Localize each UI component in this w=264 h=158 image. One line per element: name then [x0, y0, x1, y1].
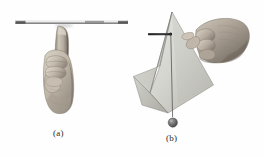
figure-illustration: [0, 0, 264, 158]
panel-a-caption: (a): [53, 128, 64, 138]
panel-b-caption: (b): [166, 133, 177, 143]
plumb-bob: [168, 118, 177, 127]
balanced-rod: [16, 20, 129, 24]
physics-figure-center-of-gravity: (a) (b): [0, 0, 264, 158]
pivot-pin: [148, 33, 172, 36]
